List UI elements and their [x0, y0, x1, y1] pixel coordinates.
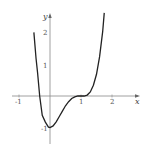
tick-label-x-1: 1: [79, 98, 83, 106]
tick-label-x-neg1: -1: [15, 98, 22, 106]
function-plot: y x -1 1 2 2 1 -1: [0, 0, 151, 149]
y-axis-label: y: [42, 12, 48, 21]
x-axis-label: x: [135, 97, 140, 106]
tick-label-x-2: 2: [110, 98, 114, 106]
tick-label-y-2: 2: [43, 29, 47, 37]
y-axis-arrow-icon: [48, 13, 51, 18]
tick-label-y-neg1: -1: [41, 125, 48, 133]
tick-label-y-1: 1: [43, 62, 47, 70]
